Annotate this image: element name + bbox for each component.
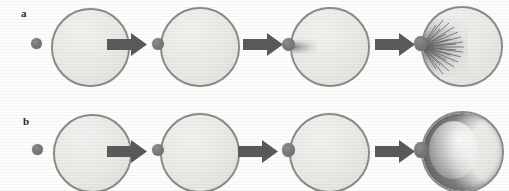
panel-label-b: b: [23, 116, 29, 127]
particle-b-3: [282, 143, 295, 157]
particle-droplet-figure: a: [0, 0, 509, 191]
particle-a-1: [31, 38, 42, 49]
particle-b-4: [414, 142, 428, 158]
dispersion-streaks-a-4: [421, 17, 472, 77]
particle-b-2: [152, 144, 164, 156]
particle-a-4: [414, 36, 428, 51]
droplet-b-3: [289, 113, 370, 191]
arrow-b-1: [107, 140, 147, 163]
rim-shadow: [423, 113, 502, 191]
droplet-a-2: [160, 7, 240, 87]
arrow-a-1: [107, 33, 147, 56]
particle-a-2: [152, 38, 164, 50]
droplet-sheen: [291, 115, 368, 191]
droplet-sheen: [162, 9, 238, 85]
sequence-row-b: b: [0, 96, 509, 191]
droplet-a-4: [421, 6, 503, 87]
arrow-a-2: [243, 33, 283, 56]
droplet-a-3: [290, 7, 370, 87]
droplet-b-4: [421, 111, 504, 191]
particle-a-3: [282, 38, 295, 51]
arrow-b-2: [238, 140, 278, 163]
arrow-b-3: [375, 140, 415, 163]
arrow-a-3: [375, 33, 415, 56]
panel-label-a: a: [21, 8, 27, 19]
sequence-row-a: a: [0, 0, 509, 95]
droplet-sheen: [162, 115, 238, 191]
particle-b-1: [32, 144, 43, 155]
droplet-b-2: [160, 113, 240, 191]
